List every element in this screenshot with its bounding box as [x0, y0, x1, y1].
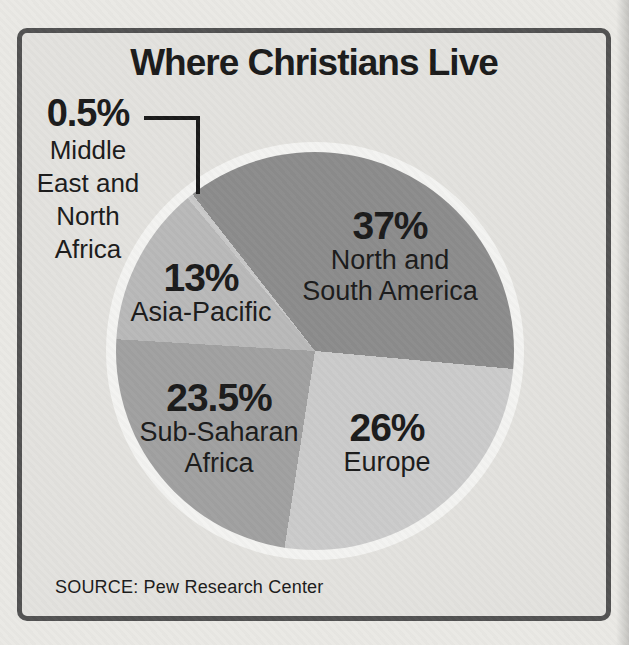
- slice-label-asia-pacific: 13% Asia-Pacific: [130, 258, 271, 328]
- slice-name-line: Asia-Pacific: [130, 297, 271, 328]
- slice-value: 23.5%: [139, 378, 298, 417]
- slice-name-line: Europe: [343, 447, 430, 478]
- slice-label-europe: 26% Europe: [343, 408, 430, 478]
- slice-name-line: North and: [302, 245, 478, 276]
- page-edge-shadow: [616, 0, 629, 645]
- slice-name-line: Sub-Saharan: [139, 417, 298, 448]
- slice-name-line: Africa: [139, 448, 298, 479]
- slice-label-north-south-america: 37% North and South America: [302, 206, 478, 308]
- callout-leader-line-vertical: [196, 116, 200, 194]
- slice-value: 37%: [302, 206, 478, 245]
- callout-leader-line-horizontal: [144, 116, 200, 120]
- book-page: Where Christians Live 37% North and Sout…: [0, 0, 629, 645]
- slice-name-line: North: [37, 200, 140, 233]
- slice-callout-middle-east-north-africa: 0.5% Middle East and North Africa: [37, 94, 140, 266]
- chart-title: Where Christians Live: [130, 42, 498, 84]
- slice-label-sub-saharan-africa: 23.5% Sub-Saharan Africa: [139, 378, 298, 480]
- slice-name-line: Africa: [37, 233, 140, 266]
- slice-name-line: Middle: [37, 134, 140, 167]
- slice-value: 0.5%: [37, 94, 140, 134]
- slice-value: 26%: [343, 408, 430, 447]
- slice-value: 13%: [130, 258, 271, 297]
- source-attribution: SOURCE: Pew Research Center: [55, 577, 324, 598]
- slice-name-line: South America: [302, 276, 478, 307]
- slice-name-line: East and: [37, 167, 140, 200]
